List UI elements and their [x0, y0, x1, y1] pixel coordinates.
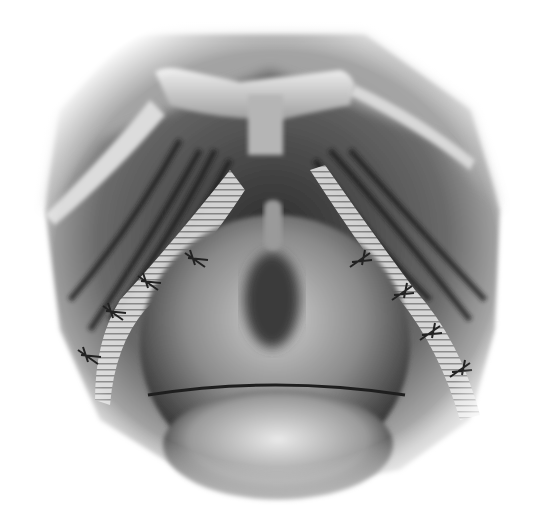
- vignette: [0, 0, 552, 518]
- anatomical-illustration: [0, 0, 552, 518]
- illustration-canvas: [0, 0, 552, 518]
